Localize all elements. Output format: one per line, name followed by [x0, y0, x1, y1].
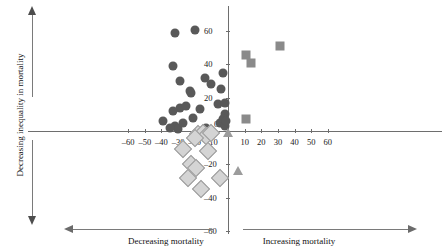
- data-point-diamond: [210, 168, 228, 186]
- y-axis-arrow-up-shaft: [32, 14, 33, 97]
- data-point-circle: [175, 77, 184, 86]
- data-point-triangle: [233, 166, 243, 175]
- y-tick-label: –20: [204, 159, 217, 169]
- data-point-circle: [170, 28, 179, 37]
- data-point-circle: [220, 98, 229, 107]
- scatter-chart-figure: –60–50–40–30–20–100102030405060 –60–40–2…: [0, 0, 442, 249]
- data-point-circle: [179, 118, 188, 127]
- data-point-square: [242, 115, 251, 124]
- x-tick: [278, 129, 279, 133]
- y-axis-arrow-down-shaft: [32, 140, 33, 218]
- x-tick-label: –50: [138, 137, 151, 147]
- y-axis-title: Decreasing inequality in mortality: [15, 40, 25, 190]
- decreasing-mortality-arrow-head-icon: [64, 225, 73, 233]
- increasing-mortality-label: Increasing mortality: [263, 236, 336, 246]
- y-tick-label: –40: [204, 193, 217, 203]
- y-axis-arrow-up-head-icon: [28, 6, 36, 15]
- x-tick: [328, 129, 329, 133]
- y-tick-label: 40: [204, 59, 213, 69]
- data-point-circle: [189, 113, 198, 122]
- x-tick-label: 30: [274, 137, 283, 147]
- x-tick: [311, 129, 312, 133]
- y-tick-label: –60: [204, 226, 217, 236]
- x-tick: [245, 129, 246, 133]
- data-point-circle: [207, 80, 216, 89]
- data-point-triangle: [223, 128, 233, 137]
- data-point-circle: [165, 123, 174, 132]
- data-point-square: [275, 42, 284, 51]
- y-tick: [226, 64, 230, 65]
- y-tick: [226, 198, 230, 199]
- x-tick-label: 20: [257, 137, 266, 147]
- x-tick-label: 10: [240, 137, 249, 147]
- data-point-circle: [195, 105, 204, 114]
- x-tick-label: –40: [155, 137, 168, 147]
- increasing-mortality-arrow-head-icon: [408, 225, 417, 233]
- x-tick: [261, 129, 262, 133]
- y-tick: [226, 231, 230, 232]
- y-tick-label: 60: [204, 26, 213, 36]
- data-point-circle: [182, 102, 191, 111]
- data-point-circle: [222, 117, 231, 126]
- x-tick: [295, 129, 296, 133]
- y-axis-arrow-down-head-icon: [28, 216, 36, 225]
- data-point-square: [247, 58, 256, 67]
- y-tick-label: 20: [204, 93, 213, 103]
- x-tick: [145, 129, 146, 133]
- data-point-circle: [187, 88, 196, 97]
- x-tick: [161, 129, 162, 133]
- data-point-circle: [219, 68, 228, 77]
- data-point-circle: [169, 62, 178, 71]
- x-tick-label: 50: [307, 137, 316, 147]
- x-axis-line: [28, 131, 442, 132]
- decreasing-mortality-arrow-shaft: [73, 229, 213, 230]
- x-tick: [128, 129, 129, 133]
- y-tick: [226, 31, 230, 32]
- x-tick-label: 40: [290, 137, 299, 147]
- data-point-circle: [217, 85, 226, 94]
- plot-area: –60–50–40–30–20–100102030405060 –60–40–2…: [0, 0, 442, 249]
- x-tick-label: 60: [324, 137, 333, 147]
- data-point-circle: [190, 25, 199, 34]
- increasing-mortality-arrow-shaft: [243, 229, 409, 230]
- x-tick-label: –60: [122, 137, 135, 147]
- y-tick: [226, 164, 230, 165]
- data-point-circle: [169, 107, 178, 116]
- decreasing-mortality-label: Decreasing mortality: [128, 236, 204, 246]
